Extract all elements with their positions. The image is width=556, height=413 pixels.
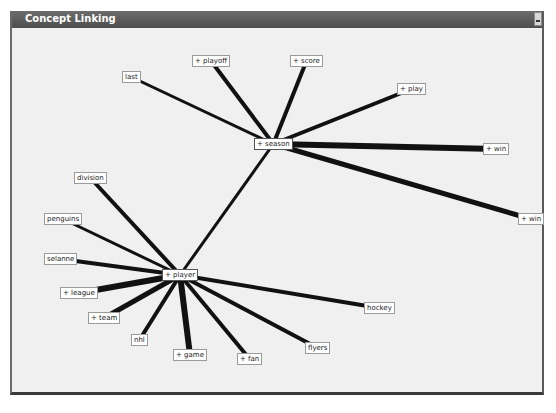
edge-season-win2 — [273, 144, 531, 219]
concept-node-league[interactable]: + league — [60, 287, 98, 299]
concept-node-score[interactable]: + score — [290, 55, 323, 67]
edge-season-playoff — [211, 61, 273, 144]
edge-season-win1 — [273, 144, 496, 149]
graph-canvas[interactable]: + season+ playerlast+ playoff+ score+ pl… — [12, 28, 542, 392]
concept-node-play[interactable]: + play — [397, 83, 426, 95]
concept-node-playoff[interactable]: + playoff — [192, 55, 230, 67]
concept-node-game[interactable]: + game — [173, 349, 207, 361]
edge-season-player — [180, 144, 273, 275]
concept-node-team[interactable]: + team — [88, 312, 120, 324]
title-bar[interactable]: Concept Linking — [12, 11, 542, 29]
concept-node-last[interactable]: last — [122, 71, 141, 83]
concept-node-fan[interactable]: + fan — [237, 353, 262, 365]
concept-node-penguins[interactable]: penguins — [44, 213, 82, 225]
concept-node-player[interactable]: + player — [162, 269, 198, 281]
concept-node-win1[interactable]: + win — [483, 143, 509, 155]
window-title: Concept Linking — [25, 13, 116, 24]
minimize-button[interactable] — [534, 12, 542, 26]
concept-node-season[interactable]: + season — [254, 138, 293, 150]
concept-node-hockey[interactable]: hockey — [364, 302, 395, 314]
concept-linking-window: Concept Linking + season+ playerlast+ pl… — [10, 11, 544, 395]
concept-node-division[interactable]: division — [74, 172, 107, 184]
graph-edges — [12, 28, 542, 392]
concept-node-win2[interactable]: + win — [518, 213, 544, 225]
edge-season-last — [131, 77, 273, 144]
concept-node-selanne[interactable]: selanne — [44, 253, 77, 265]
concept-node-nhl[interactable]: nhl — [131, 334, 148, 346]
concept-node-flyers[interactable]: flyers — [305, 342, 330, 354]
edge-player-division — [90, 178, 180, 275]
